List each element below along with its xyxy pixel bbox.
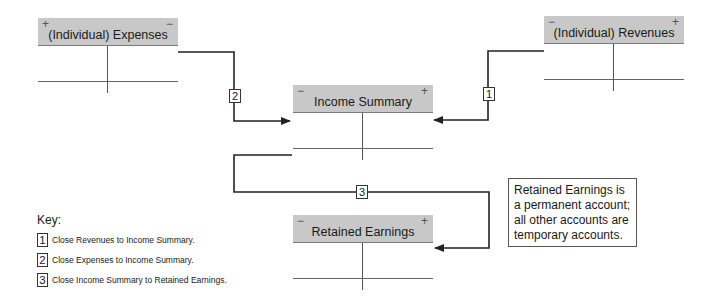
- key-step-text: Close Expenses to Income Summary.: [52, 255, 194, 265]
- t-horizontal-line: [293, 148, 433, 149]
- t-account-retained-earnings: − + Retained Earnings: [293, 215, 433, 290]
- t-account-revenues: − + (Individual) Revenues: [544, 16, 684, 91]
- key-step-text: Close Income Summary to Retained Earning…: [52, 275, 227, 285]
- t-account-header: − + Retained Earnings: [293, 215, 433, 243]
- t-vertical-line: [107, 46, 108, 93]
- t-vertical-line: [613, 44, 614, 91]
- account-title: (Individual) Revenues: [544, 26, 684, 40]
- t-account-body: [293, 113, 433, 160]
- t-horizontal-line: [38, 81, 178, 82]
- t-vertical-line: [362, 243, 363, 290]
- t-account-body: [544, 44, 684, 91]
- step-1-label: 1: [483, 87, 495, 101]
- t-account-header: − + Income Summary: [293, 85, 433, 113]
- key-item: 2 Close Expenses to Income Summary.: [37, 250, 227, 270]
- key-legend: Key: 1 Close Revenues to Income Summary.…: [37, 213, 227, 290]
- key-title: Key:: [37, 213, 227, 227]
- t-horizontal-line: [293, 278, 433, 279]
- step-3-label: 3: [356, 185, 368, 199]
- t-account-header: + − (Individual) Expenses: [38, 18, 178, 46]
- t-vertical-line: [362, 113, 363, 160]
- key-item: 3 Close Income Summary to Retained Earni…: [37, 270, 227, 290]
- account-title: (Individual) Expenses: [38, 28, 178, 42]
- t-horizontal-line: [544, 79, 684, 80]
- key-item: 1 Close Revenues to Income Summary.: [37, 230, 227, 250]
- permanent-account-note: Retained Earnings is a permanent account…: [508, 178, 637, 247]
- key-step-number: 2: [37, 253, 48, 267]
- t-account-expenses: + − (Individual) Expenses: [38, 18, 178, 93]
- t-account-header: − + (Individual) Revenues: [544, 16, 684, 44]
- account-title: Retained Earnings: [293, 225, 433, 239]
- account-title: Income Summary: [293, 95, 433, 109]
- key-step-number: 1: [37, 233, 48, 247]
- key-step-text: Close Revenues to Income Summary.: [52, 235, 195, 245]
- key-step-number: 3: [37, 273, 48, 287]
- t-account-body: [293, 243, 433, 290]
- t-account-body: [38, 46, 178, 93]
- step-2-label: 2: [229, 89, 241, 103]
- t-account-income-summary: − + Income Summary: [293, 85, 433, 160]
- connector-expenses-to-income-summary: [178, 52, 290, 121]
- connector-revenues-to-income-summary: [434, 51, 544, 120]
